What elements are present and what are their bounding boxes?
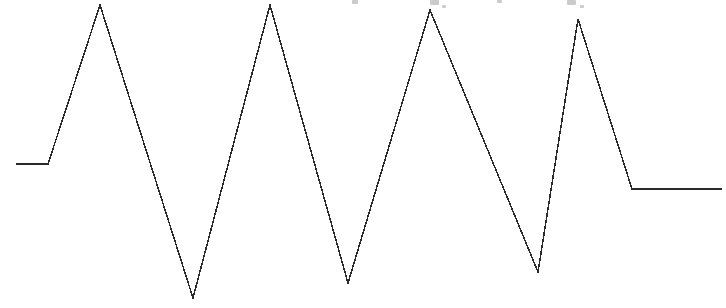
- screenshot-root: [0, 0, 726, 308]
- plot-background: [0, 0, 726, 308]
- waveform-chart: [0, 0, 726, 308]
